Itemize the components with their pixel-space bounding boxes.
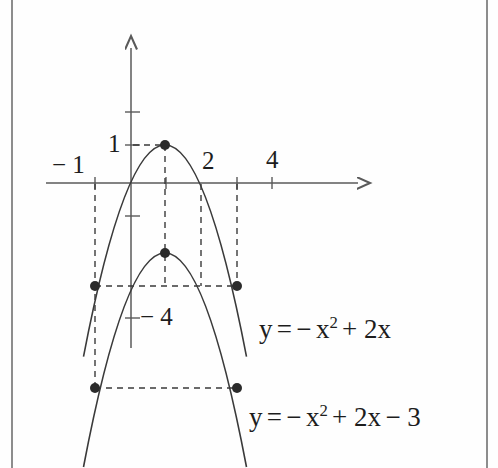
point-lower-left: [90, 383, 100, 393]
point-lower-right: [232, 383, 242, 393]
point-upper-left: [90, 281, 100, 291]
eq-upper-exponent: 2: [329, 313, 337, 332]
x-tick-label-4: 4: [266, 147, 279, 172]
eq-lower-minus-three: − 3: [385, 402, 420, 432]
equation-label-lower: y=−x2+ 2x− 3: [249, 404, 421, 431]
eq-lower-x: x: [306, 402, 320, 432]
y-tick-label-1: 1: [108, 131, 121, 156]
parabola-plot: [0, 0, 498, 468]
x-tick-label-2: 2: [202, 148, 215, 173]
eq-upper-x: x: [316, 314, 330, 344]
equation-label-upper: y=−x2+ 2x: [259, 316, 391, 343]
curve-lower-parabola: [84, 253, 247, 467]
eq-lower-minus: −: [286, 402, 301, 432]
eq-upper-y: y: [259, 314, 273, 344]
point-upper-right: [232, 281, 242, 291]
eq-lower-equals: =: [267, 402, 282, 432]
point-upper-vertex: [160, 140, 170, 150]
eq-lower-plus-two-x: + 2x: [332, 402, 381, 432]
point-lower-vertex: [160, 248, 170, 258]
eq-upper-plus-two-x: + 2x: [342, 314, 391, 344]
y-tick-label-neg4: − 4: [140, 304, 173, 329]
eq-lower-exponent: 2: [319, 401, 327, 420]
eq-lower-y: y: [249, 402, 263, 432]
eq-upper-equals: =: [277, 314, 292, 344]
x-tick-label-neg1: − 1: [52, 152, 85, 177]
figure-canvas: − 1 2 4 1 − 4 y=−x2+ 2x y=−x2+ 2x− 3: [0, 0, 498, 468]
eq-upper-minus: −: [296, 314, 311, 344]
